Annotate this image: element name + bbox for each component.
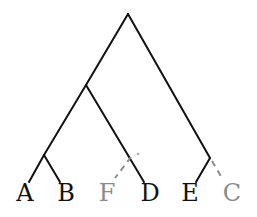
edge-ab-to-b [44,155,60,182]
leaf-label-a: A [15,179,34,207]
leaf-label-b: B [57,179,75,207]
leaf-label-d: D [140,179,159,207]
edge-ab-to-a [29,155,44,182]
phylogenetic-tree-diagram: A B F D E C [0,0,257,217]
edge-abfd-to-d [86,85,144,182]
edge-dashed-to-f [115,157,131,178]
faded-attachment-dot [137,153,140,156]
leaf-label-f: F [99,179,116,207]
edge-dashed-to-c [212,161,222,178]
edge-abfd-to-ab [44,85,86,155]
leaf-label-e: E [181,179,199,207]
edge-root-to-abfd [86,14,128,85]
leaf-label-c: C [223,179,241,207]
edge-root-to-ec [128,14,210,158]
